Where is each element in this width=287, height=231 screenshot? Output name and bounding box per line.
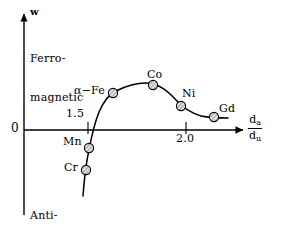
- y-axis-label: w: [30, 6, 39, 18]
- x-axis-label-numerator: da: [248, 114, 262, 127]
- x-axis-denominator-symbol: d: [249, 129, 256, 142]
- bethe-slater-curve: [83, 83, 228, 196]
- point-label-ni: Ni: [182, 88, 196, 101]
- data-point-mn[interactable]: [84, 143, 93, 152]
- data-point-ni[interactable]: [176, 101, 185, 110]
- antiferromagnetic-label-line-1: Anti-: [30, 210, 83, 223]
- data-point-gd[interactable]: [209, 112, 218, 121]
- point-label-mn: Mn: [63, 136, 82, 149]
- bethe-slater-curve-figure: w 0 Ferro- magnetic Anti- ferro- magneti…: [0, 0, 287, 231]
- x-axis-label-denominator: du: [248, 130, 262, 143]
- data-point-cr[interactable]: [81, 165, 90, 174]
- x-tick-label-1-5: 1.5: [66, 108, 84, 121]
- x-axis-numerator-subscript: a: [256, 118, 261, 127]
- point-label-cr: Cr: [64, 162, 78, 175]
- origin-label: 0: [11, 121, 19, 135]
- point-label-co: Co: [147, 69, 162, 82]
- point-label-gd: Gd: [219, 103, 235, 116]
- antiferromagnetic-label: Anti- ferro- magnetic: [30, 184, 83, 231]
- x-axis-denominator-subscript: u: [256, 134, 261, 143]
- x-tick-label-2-0: 2.0: [176, 133, 194, 146]
- point-label-alpha-fe: α−Fe: [74, 85, 105, 98]
- data-point-alpha-fe[interactable]: [108, 88, 117, 97]
- ferromagnetic-label-line-1: Ferro-: [30, 53, 83, 66]
- x-axis-label: da du: [248, 114, 262, 143]
